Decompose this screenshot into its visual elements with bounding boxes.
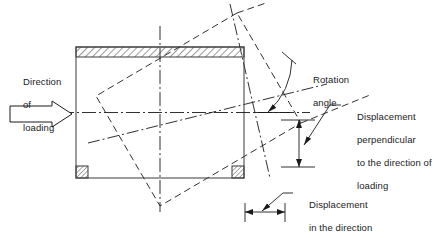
displacement-in-direction-line1: Displacement — [309, 199, 368, 210]
displacement-perpendicular-line3: to the direction of — [357, 157, 432, 168]
direction-of-loading-label: Direction of loading — [12, 64, 61, 145]
rotation-angle-line2: angle — [313, 97, 337, 108]
direction-of-loading-line1: Direction — [23, 76, 61, 87]
hatched-corner-block-left — [76, 166, 88, 178]
direction-of-loading-line3: loading — [23, 122, 54, 133]
diagram-canvas: Direction of loading Rotation angle Disp… — [0, 0, 434, 238]
rotated-major-centerline — [88, 84, 327, 143]
loading-direction-displacement-dimension — [245, 193, 293, 222]
hatched-corner-block-right — [232, 166, 244, 178]
displacement-perpendicular-line1: Displacement — [357, 111, 416, 122]
displacement-in-direction-line2: in the direction — [309, 222, 372, 233]
rotation-angle-line1: Rotation — [313, 74, 349, 85]
displacement-in-direction-label: Displacement in the direction of loading — [298, 187, 372, 238]
rotated-minor-centerline — [230, 4, 270, 178]
rotation-angle-label: Rotation angle — [302, 62, 349, 120]
displacement-perpendicular-line2: perpendicular — [357, 134, 416, 145]
direction-of-loading-line2: of — [23, 99, 31, 110]
